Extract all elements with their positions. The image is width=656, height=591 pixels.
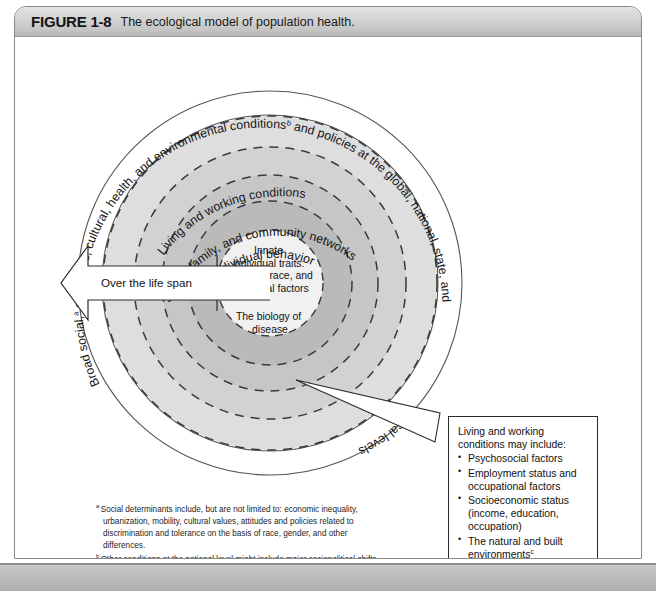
figure-footnotes: aSocial determinants include, but are no…	[96, 502, 388, 558]
footnote-b-marker: b	[96, 553, 99, 558]
callout-item-text: Psychosocial factors	[468, 454, 563, 465]
footnote-a-text: Social determinants include, but are not…	[101, 505, 358, 550]
callout-title-line-1: Living and working	[458, 426, 544, 437]
callout-item-sup: c	[530, 548, 533, 555]
callout-title-line-2: conditions may include:	[458, 439, 566, 450]
core-bottom-line-1: The biology of	[236, 311, 301, 322]
callout-title: Living and working conditions may includ…	[458, 425, 590, 451]
figure-caption: The ecological model of population healt…	[121, 15, 355, 29]
figure-body: Broad social,a economic, cultural, healt…	[15, 38, 641, 558]
footnote-b: bOther conditions at the national level …	[96, 552, 388, 558]
footnote-a: aSocial determinants include, but are no…	[96, 502, 388, 552]
over-the-life-span-label: Over the life span	[101, 276, 192, 289]
callout-box-living-working-conditions: Living and working conditions may includ…	[448, 416, 598, 558]
core-bottom-line-2: disease	[252, 324, 288, 335]
page-bottom-band	[0, 565, 656, 591]
callout-item-text: Socioeconomic status (income, education,…	[468, 495, 569, 533]
figure-number: FIGURE 1-8	[31, 13, 112, 30]
callout-item: Psychosocial factors	[458, 452, 590, 466]
footnote-a-marker: a	[96, 503, 99, 509]
footnote-b-text: Other conditions at the national level m…	[101, 555, 379, 558]
callout-item-text: The natural and built environments	[468, 536, 563, 558]
callout-item-text: Employment status and occupational facto…	[468, 468, 577, 493]
callout-item: The natural and built environmentsc	[458, 535, 590, 558]
callout-item-list: Psychosocial factors Employment status a…	[458, 452, 590, 558]
figure-header-bar: FIGURE 1-8 The ecological model of popul…	[15, 7, 641, 37]
callout-item: Employment status and occupational facto…	[458, 467, 590, 494]
core-line-1: Innate	[254, 245, 283, 256]
callout-item: Socioeconomic status (income, education,…	[458, 494, 590, 534]
figure-frame: FIGURE 1-8 The ecological model of popul…	[14, 6, 642, 559]
